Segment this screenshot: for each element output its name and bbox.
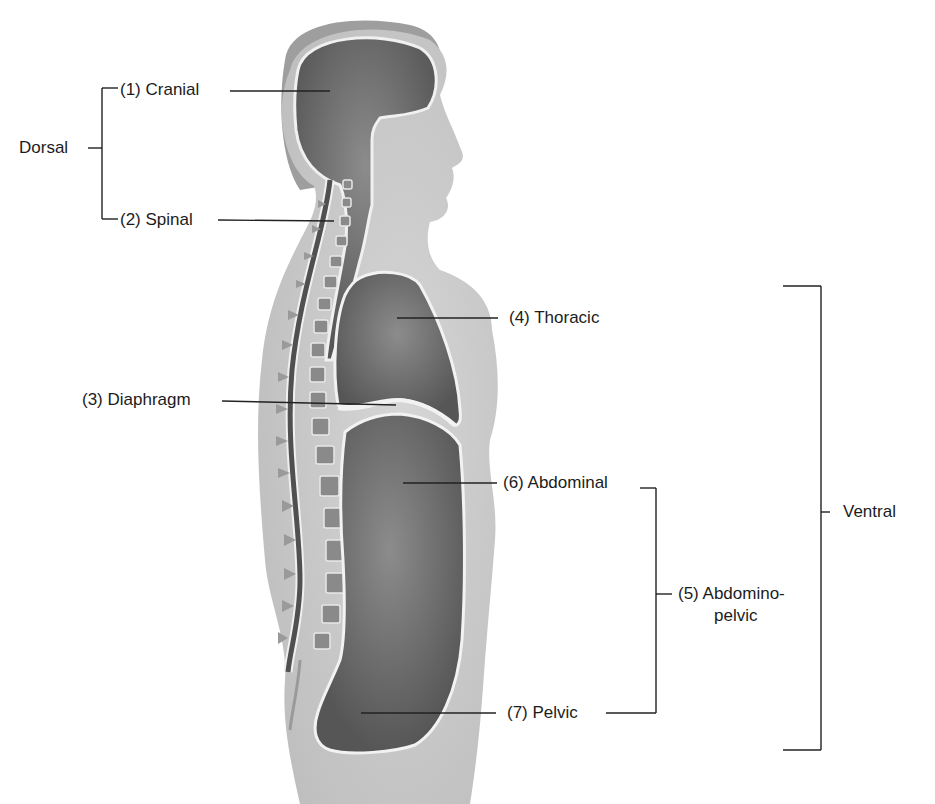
label-abdominopelvic-line1: (5) Abdomino-: [678, 584, 785, 604]
label-abdominal: (6) Abdominal: [503, 473, 608, 493]
label-pelvic: (7) Pelvic: [507, 703, 578, 723]
label-spinal: (2) Spinal: [120, 210, 193, 230]
label-thoracic: (4) Thoracic: [509, 308, 599, 328]
label-ventral: Ventral: [843, 502, 896, 522]
label-abdominopelvic-line2: pelvic: [714, 606, 757, 626]
label-dorsal: Dorsal: [19, 138, 68, 158]
label-cranial: (1) Cranial: [120, 80, 199, 100]
label-diaphragm: (3) Diaphragm: [82, 390, 191, 410]
